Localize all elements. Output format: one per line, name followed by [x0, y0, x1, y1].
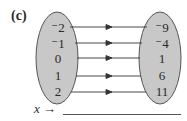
rule-prefix: x → — [34, 101, 56, 117]
range-value: ⁻4 — [150, 37, 174, 50]
mapping-arrows — [70, 25, 147, 95]
part-label: (c) — [11, 8, 27, 24]
domain-value: ⁻1 — [46, 37, 70, 50]
range-value: 6 — [150, 69, 174, 82]
domain-value: 0 — [46, 52, 70, 65]
range-value: ⁻9 — [150, 21, 174, 34]
rule-answer-blank[interactable] — [63, 101, 181, 115]
range-value: 11 — [150, 85, 174, 98]
domain-value: 1 — [46, 69, 70, 82]
domain-value: 2 — [46, 85, 70, 98]
range-value: 1 — [150, 52, 174, 65]
domain-value: ⁻2 — [46, 21, 70, 34]
